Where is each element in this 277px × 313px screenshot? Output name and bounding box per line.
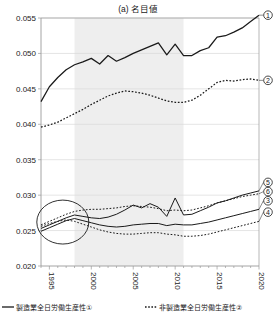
series-marker-label-④: 4 bbox=[266, 209, 270, 216]
series-marker-label-⑥: 6 bbox=[266, 188, 270, 195]
chart-container: (a) 名目値 0.0200.0250.0300.0350.0400.0450.… bbox=[0, 0, 277, 313]
x-tick-label: 2020 bbox=[257, 272, 266, 290]
x-tick-label: 1995 bbox=[47, 272, 56, 290]
nominal-value-line-chart: (a) 名目値 0.0200.0250.0300.0350.0400.0450.… bbox=[0, 0, 277, 313]
x-tick-label: 2010 bbox=[173, 272, 182, 290]
y-tick-label: 0.050 bbox=[16, 49, 37, 58]
y-tick-label: 0.045 bbox=[16, 85, 37, 94]
y-tick-label: 0.040 bbox=[16, 120, 37, 129]
series-marker-label-⑤: 5 bbox=[266, 179, 270, 186]
x-tick-label: 2015 bbox=[215, 272, 224, 290]
series-marker-label-③: 3 bbox=[266, 197, 270, 204]
y-tick-label: 0.055 bbox=[16, 14, 37, 23]
y-tick-label: 0.035 bbox=[16, 156, 37, 165]
series-marker-label-②: 2 bbox=[266, 77, 270, 84]
y-tick-label: 0.020 bbox=[16, 262, 37, 271]
x-tick-label: 2005 bbox=[131, 272, 140, 290]
y-tick-label: 0.025 bbox=[16, 227, 37, 236]
x-tick-label: 2000 bbox=[89, 272, 98, 290]
legend-label-nonmanufacturing: 非製造業全日労働生産性② bbox=[159, 303, 242, 312]
y-tick-label: 0.030 bbox=[16, 191, 37, 200]
legend-label-manufacturing: 製造業全日労働生産性① bbox=[16, 303, 92, 312]
chart-title: (a) 名目値 bbox=[118, 4, 158, 14]
series-marker-label-①: 1 bbox=[266, 12, 270, 19]
